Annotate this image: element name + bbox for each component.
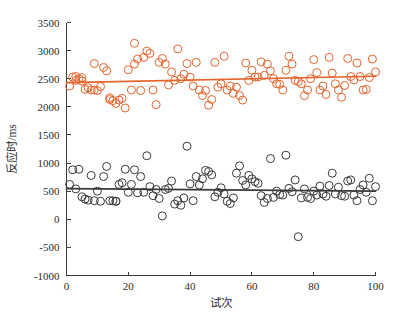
y-tick-label: 1000 bbox=[38, 157, 61, 169]
data-point bbox=[365, 174, 373, 182]
data-point bbox=[90, 60, 98, 68]
data-point bbox=[189, 197, 197, 205]
data-point bbox=[291, 176, 299, 184]
y-tick-label: 3500 bbox=[38, 17, 61, 29]
data-point bbox=[288, 60, 296, 68]
data-point bbox=[334, 183, 342, 191]
scatter-plot-figure: -1000-5000500100015002000250030003500020… bbox=[0, 0, 397, 316]
y-tick-label: 0 bbox=[54, 213, 60, 225]
x-tick-label: 40 bbox=[185, 280, 197, 292]
y-tick-label: 1500 bbox=[38, 129, 61, 141]
data-point bbox=[372, 68, 380, 76]
data-point bbox=[75, 165, 83, 173]
series-upper-orange-series bbox=[66, 39, 380, 112]
y-tick-label: 2500 bbox=[38, 73, 61, 85]
data-point bbox=[127, 86, 135, 94]
data-point bbox=[294, 233, 302, 241]
data-point bbox=[121, 165, 129, 173]
data-point bbox=[338, 93, 346, 101]
data-point bbox=[232, 169, 240, 177]
data-point bbox=[143, 152, 151, 160]
data-point bbox=[217, 80, 225, 88]
data-point bbox=[322, 90, 330, 98]
data-point bbox=[121, 104, 129, 112]
data-point bbox=[214, 83, 222, 91]
data-point bbox=[130, 39, 138, 47]
x-tick-label: 0 bbox=[64, 280, 70, 292]
data-point bbox=[183, 142, 191, 150]
data-point bbox=[149, 86, 157, 94]
data-point bbox=[325, 182, 333, 190]
data-point bbox=[242, 59, 250, 67]
x-tick-label: 80 bbox=[308, 280, 320, 292]
data-point bbox=[288, 188, 296, 196]
axes bbox=[67, 23, 376, 276]
data-point bbox=[195, 181, 203, 189]
data-point bbox=[211, 58, 219, 66]
data-point bbox=[168, 177, 176, 185]
y-axis-title: 反应时/ms bbox=[5, 124, 18, 174]
data-point bbox=[307, 75, 315, 83]
data-point bbox=[186, 180, 194, 188]
data-point bbox=[341, 81, 349, 89]
data-point bbox=[282, 151, 290, 159]
data-point bbox=[183, 60, 191, 68]
data-point bbox=[100, 63, 108, 71]
data-point bbox=[87, 171, 95, 179]
data-point bbox=[325, 53, 333, 61]
data-point bbox=[245, 76, 253, 84]
data-point bbox=[245, 171, 253, 179]
data-point bbox=[208, 171, 216, 179]
data-point bbox=[103, 67, 111, 75]
y-tick-label: 3000 bbox=[38, 45, 61, 57]
data-point bbox=[300, 185, 308, 193]
x-tick-label: 20 bbox=[123, 280, 135, 292]
data-point bbox=[310, 56, 318, 64]
y-tick-label: -500 bbox=[39, 241, 60, 253]
y-tick-label: -1000 bbox=[34, 270, 60, 282]
data-point bbox=[220, 52, 228, 60]
data-point bbox=[344, 54, 352, 62]
plot-canvas: -1000-5000500100015002000250030003500020… bbox=[0, 0, 397, 316]
data-point bbox=[266, 155, 274, 163]
data-point bbox=[372, 183, 380, 191]
data-point bbox=[266, 67, 274, 75]
data-point bbox=[313, 69, 321, 77]
data-point bbox=[328, 169, 336, 177]
data-point bbox=[137, 87, 145, 95]
data-point bbox=[168, 68, 176, 76]
y-tick-label: 500 bbox=[43, 185, 60, 197]
data-point bbox=[328, 69, 336, 77]
data-point bbox=[316, 182, 324, 190]
x-axis-ticks: 020406080100 bbox=[64, 272, 385, 292]
y-axis-ticks: -1000-5000500100015002000250030003500 bbox=[34, 17, 71, 282]
x-tick-label: 100 bbox=[367, 280, 384, 292]
trend-line-upper-orange-series bbox=[67, 76, 376, 82]
x-axis-title: 试次 bbox=[210, 296, 233, 309]
y-tick-label: 2000 bbox=[38, 101, 61, 113]
data-point bbox=[192, 58, 200, 66]
x-tick-label: 60 bbox=[246, 280, 258, 292]
data-point bbox=[174, 45, 182, 53]
data-point bbox=[353, 59, 361, 67]
data-point bbox=[127, 180, 135, 188]
data-point bbox=[158, 212, 166, 220]
data-point bbox=[236, 162, 244, 170]
data-point bbox=[103, 162, 111, 170]
data-point bbox=[152, 101, 160, 109]
data-point bbox=[100, 173, 108, 181]
data-point bbox=[137, 173, 145, 181]
data-point bbox=[331, 80, 339, 88]
data-point bbox=[368, 197, 376, 205]
data-point bbox=[130, 166, 138, 174]
data-point bbox=[285, 52, 293, 60]
data-point bbox=[96, 197, 104, 205]
data-point bbox=[368, 55, 376, 63]
data-point bbox=[282, 66, 290, 74]
